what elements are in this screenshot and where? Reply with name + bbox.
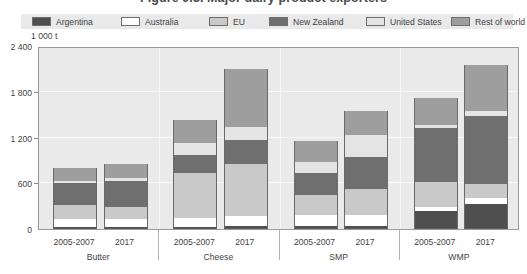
y-axis: 06001 2001 8002 400: [0, 47, 38, 230]
bar-segment-united-states: [224, 127, 268, 140]
gridline: [39, 91, 518, 92]
y-axis-tick-label: 0: [27, 225, 32, 235]
legend-item-rest-of-world: Rest of world: [451, 14, 525, 29]
legend-item-new-zealand: New Zealand: [269, 14, 344, 29]
legend-label: Australia: [145, 17, 178, 27]
bar-segment-eu: [344, 189, 388, 214]
x-axis-period-label: 2017: [235, 237, 254, 247]
bar-segment-argentina: [464, 204, 508, 229]
bar-segment-rest-of-world: [104, 164, 148, 178]
bar-segment-new-zealand: [294, 173, 338, 195]
bar-segment-new-zealand: [224, 140, 268, 164]
bar-segment-rest-of-world: [464, 65, 508, 111]
bar-segment-united-states: [104, 178, 148, 181]
bar-segment-australia: [294, 215, 338, 226]
bar-segment-eu: [53, 205, 97, 219]
bar-segment-argentina: [294, 226, 338, 229]
x-axis-period-label: 2005-2007: [54, 237, 95, 247]
bar-segment-new-zealand: [173, 155, 217, 173]
bar-wmp-2017: [464, 65, 508, 229]
bar-segment-new-zealand: [464, 116, 508, 185]
bar-segment-rest-of-world: [224, 69, 268, 127]
bar-segment-united-states: [173, 143, 217, 155]
bar-butter-2005-2007: [53, 168, 97, 229]
x-axis-group-label: Butter: [87, 252, 110, 262]
legend-label: New Zealand: [293, 17, 344, 27]
bar-segment-united-states: [464, 111, 508, 116]
bar-segment-rest-of-world: [173, 120, 217, 143]
bar-segment-united-states: [414, 125, 458, 128]
x-axis-group-divider: [279, 230, 280, 260]
legend-swatch-icon: [121, 17, 140, 26]
x-axis-period-label: 2017: [356, 237, 375, 247]
legend-swatch-icon: [366, 17, 385, 26]
y-axis-unit-label: 1 000 t: [31, 31, 57, 41]
legend-swatch-icon: [269, 17, 288, 26]
figure-title: Figure 9.3. Major dairy product exporter…: [0, 0, 527, 7]
bar-smp-2017: [344, 111, 388, 229]
bar-segment-new-zealand: [344, 157, 388, 189]
legend-swatch-icon: [451, 17, 470, 26]
bar-segment-australia: [414, 207, 458, 212]
bar-segment-argentina: [224, 226, 268, 229]
bar-segment-eu: [464, 184, 508, 198]
x-axis-period-label: 2017: [476, 237, 495, 247]
bar-segment-eu: [414, 182, 458, 207]
legend-item-united-states: United States: [366, 14, 442, 29]
y-axis-tick-label: 1 800: [10, 88, 32, 98]
bar-cheese-2017: [224, 69, 268, 229]
bar-segment-argentina: [53, 227, 97, 229]
bar-segment-argentina: [344, 226, 388, 229]
bar-segment-eu: [173, 173, 217, 217]
legend-label: EU: [233, 17, 245, 27]
bar-butter-2017: [104, 164, 148, 229]
bar-smp-2005-2007: [294, 141, 338, 229]
bar-segment-australia: [53, 219, 97, 227]
x-axis-group-divider: [399, 230, 400, 260]
group-separator: [280, 48, 281, 229]
bar-segment-rest-of-world: [414, 98, 458, 125]
y-axis-tick-label: 600: [18, 179, 32, 189]
y-axis-tick-label: 1 200: [10, 134, 32, 144]
bar-segment-eu: [224, 164, 268, 217]
bar-segment-argentina: [173, 227, 217, 229]
x-axis-group-label: WMP: [448, 252, 469, 262]
x-axis-group-label: SMP: [329, 252, 348, 262]
x-axis-group-label: Cheese: [204, 252, 234, 262]
bar-segment-rest-of-world: [53, 168, 97, 181]
bar-segment-argentina: [104, 227, 148, 229]
bar-segment-eu: [294, 195, 338, 215]
bar-segment-australia: [224, 216, 268, 226]
bar-segment-united-states: [344, 135, 388, 157]
bar-segment-rest-of-world: [344, 111, 388, 135]
legend-label: Rest of world: [475, 17, 525, 27]
x-axis-period-label: 2017: [115, 237, 134, 247]
legend-swatch-icon: [32, 17, 51, 26]
bar-cheese-2005-2007: [173, 120, 217, 229]
x-axis-period-label: 2005-2007: [414, 237, 455, 247]
x-axis-period-label: 2005-2007: [174, 237, 215, 247]
bar-segment-eu: [104, 207, 148, 218]
chart-legend: ArgentinaAustraliaEUNew ZealandUnited St…: [21, 14, 513, 29]
group-separator: [400, 48, 401, 229]
figure-container: Figure 9.3. Major dairy product exporter…: [0, 0, 527, 274]
legend-label: United States: [390, 17, 442, 27]
legend-label: Argentina: [56, 17, 93, 27]
bar-segment-new-zealand: [104, 181, 148, 207]
x-axis-group-divider: [158, 230, 159, 260]
bar-segment-australia: [173, 218, 217, 227]
legend-item-argentina: Argentina: [32, 14, 93, 29]
bar-segment-new-zealand: [53, 183, 97, 205]
bar-segment-australia: [464, 198, 508, 204]
plot-area: [38, 47, 519, 230]
bar-segment-argentina: [414, 211, 458, 229]
x-axis: 2005-20072017Butter2005-20072017Cheese20…: [38, 230, 519, 274]
legend-swatch-icon: [209, 17, 228, 26]
bar-segment-australia: [344, 215, 388, 226]
bar-segment-rest-of-world: [294, 141, 338, 161]
bar-segment-new-zealand: [414, 128, 458, 181]
legend-item-eu: EU: [209, 14, 245, 29]
group-separator: [159, 48, 160, 229]
bar-segment-united-states: [294, 162, 338, 173]
x-axis-period-label: 2005-2007: [294, 237, 335, 247]
